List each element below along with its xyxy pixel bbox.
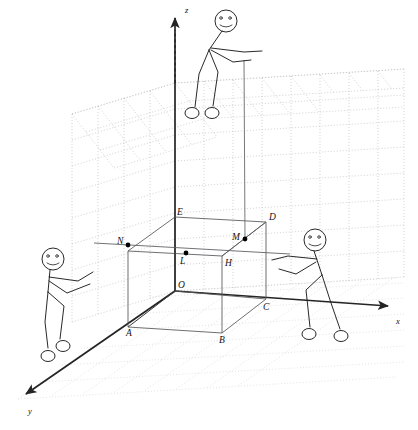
point-label-N: N	[116, 236, 124, 246]
diagram-svg: z x y	[0, 0, 418, 430]
point-label-D: D	[268, 212, 276, 222]
point-dot-M	[243, 237, 248, 242]
axis-label-z: z	[184, 5, 189, 15]
figure-top-foot-right	[205, 108, 219, 119]
point-label-L: L	[179, 256, 185, 266]
figure-top-torso	[209, 31, 222, 50]
point-label-A: A	[125, 328, 132, 338]
helper-segments	[94, 60, 290, 256]
stick-figure-left	[41, 248, 93, 362]
background-grid-top-plane	[72, 69, 404, 168]
figure-left-foot-right	[56, 341, 70, 352]
figure-left-leg-left	[45, 292, 48, 348]
figure-right-arm-lower	[279, 262, 316, 274]
point-label-E: E	[176, 207, 183, 217]
stick-figure-right	[272, 229, 348, 342]
point-dot-N	[126, 243, 131, 248]
point-label-H: H	[224, 258, 233, 268]
figure-left-leg-right	[48, 292, 64, 339]
figure-left-arm-upper	[49, 272, 93, 281]
axis-y	[26, 291, 175, 394]
figure-top-leg-left	[195, 50, 209, 107]
point-labels: O A B C D E H L M N	[116, 207, 276, 345]
figure-right-head	[304, 229, 326, 251]
point-label-O: O	[178, 280, 185, 290]
axis-label-y: y	[27, 406, 32, 416]
point-label-C: C	[263, 302, 270, 312]
axis-label-x: x	[395, 316, 400, 326]
figure-top-head	[215, 10, 237, 32]
point-dot-L	[184, 251, 189, 256]
axis-x	[175, 291, 388, 306]
stick-figure-top	[185, 10, 262, 119]
background-grid-right-wall	[175, 69, 404, 291]
figure-right-foot-right	[334, 331, 348, 342]
point-label-B: B	[219, 335, 225, 345]
point-label-M: M	[231, 232, 241, 242]
geometry-figure-root: z x y	[0, 0, 418, 430]
figure-left-foot-left	[41, 351, 55, 362]
figure-top-arm-upper	[211, 48, 262, 52]
background-grid-back-wall	[72, 83, 175, 322]
figure-left-arm-lower	[49, 281, 90, 293]
figure-right-foot-left	[302, 329, 316, 340]
figure-top-foot-left	[185, 108, 199, 119]
figure-top-leg-right	[209, 50, 218, 106]
figure-left-head	[42, 248, 64, 270]
